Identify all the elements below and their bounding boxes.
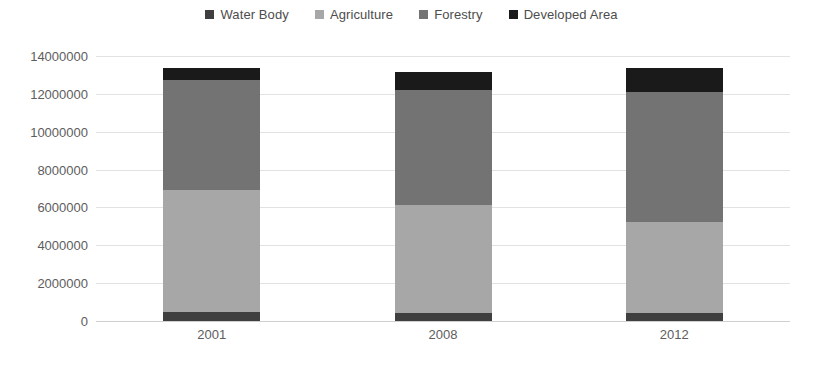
y-axis-tick-label: 0 [81,315,88,328]
y-axis-tick-label: 2000000 [37,277,88,290]
bar-stack[interactable] [395,72,492,321]
x-axis-tick-label: 2001 [197,328,226,341]
legend-item-label: Agriculture [330,8,393,21]
bar-segment[interactable] [163,312,260,321]
legend-item-label: Water Body [220,8,288,21]
bar-stack[interactable] [626,68,723,321]
bar-stack[interactable] [163,68,260,321]
gridline [96,56,790,57]
x-axis-labels: 200120082012 [96,328,790,352]
y-axis-tick-label: 10000000 [30,125,88,138]
y-axis-tick-label: 8000000 [37,163,88,176]
legend-item[interactable]: Agriculture [315,8,393,21]
legend-swatch-icon [315,10,324,19]
bar-segment[interactable] [163,190,260,312]
bar-segment[interactable] [395,313,492,321]
legend-item-label: Forestry [434,8,482,21]
legend-item[interactable]: Developed Area [509,8,618,21]
bar-segment[interactable] [626,313,723,321]
bar-segment[interactable] [395,72,492,90]
legend-swatch-icon [419,10,428,19]
plot-area [96,56,790,321]
y-axis-tick-label: 4000000 [37,239,88,252]
y-axis-tick-label: 14000000 [30,50,88,63]
x-axis-tick-label: 2012 [660,328,689,341]
y-axis-labels: 1400000012000000100000008000000600000040… [0,56,88,321]
legend-item[interactable]: Forestry [419,8,482,21]
bar-segment[interactable] [163,68,260,80]
bar-segment[interactable] [163,80,260,190]
legend-swatch-icon [509,10,518,19]
gridline [96,321,790,322]
chart-legend: Water BodyAgricultureForestryDeveloped A… [0,8,823,21]
legend-swatch-icon [205,10,214,19]
y-axis-tick-label: 12000000 [30,87,88,100]
bar-segment[interactable] [395,90,492,205]
bar-segment[interactable] [626,92,723,222]
bar-segment[interactable] [395,205,492,313]
y-axis-tick-label: 6000000 [37,201,88,214]
stacked-bar-chart: Water BodyAgricultureForestryDeveloped A… [0,0,823,378]
x-axis-tick-label: 2008 [429,328,458,341]
legend-item[interactable]: Water Body [205,8,288,21]
bar-segment[interactable] [626,68,723,92]
legend-item-label: Developed Area [524,8,618,21]
bar-segment[interactable] [626,222,723,313]
